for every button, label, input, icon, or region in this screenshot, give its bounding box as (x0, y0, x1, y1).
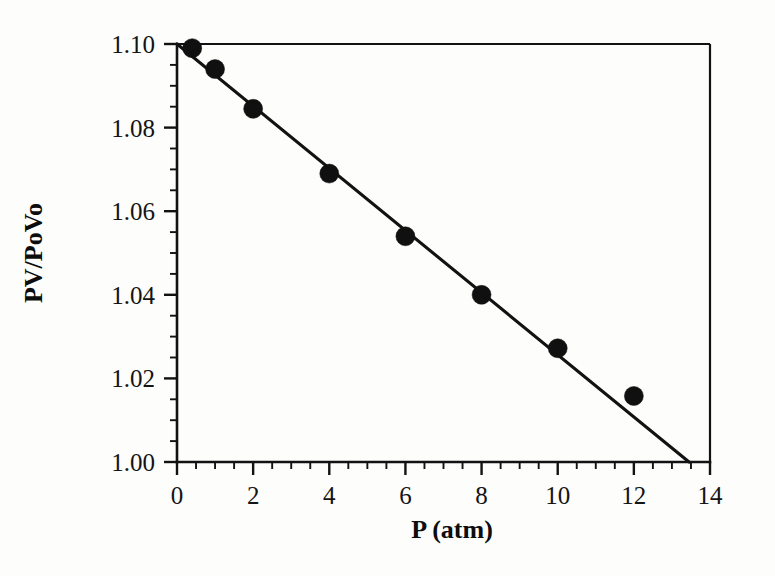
data-point-marker (183, 39, 202, 58)
x-axis-ticks (177, 462, 710, 475)
data-point-marker (396, 227, 415, 246)
x-tick-label: 12 (621, 482, 646, 509)
y-tick-label: 1.08 (111, 115, 155, 142)
y-axis-title: PV/PoVo (19, 203, 48, 303)
data-point-marker (320, 164, 339, 183)
x-axis-tick-labels: 02468101214 (171, 482, 723, 509)
y-tick-label: 1.04 (111, 282, 155, 309)
y-tick-label: 1.06 (111, 198, 155, 225)
data-points (183, 39, 644, 406)
scatter-plot: 02468101214 1.001.021.041.061.081.10 P (… (0, 0, 775, 576)
y-tick-label: 1.00 (111, 449, 155, 476)
x-tick-label: 8 (475, 482, 488, 509)
data-point-marker (472, 285, 491, 304)
x-tick-label: 0 (171, 482, 184, 509)
data-point-marker (548, 339, 567, 358)
data-point-marker (624, 386, 643, 405)
x-tick-label: 2 (247, 482, 260, 509)
data-point-marker (244, 99, 263, 118)
x-axis-title: P (atm) (411, 515, 493, 544)
chart-figure: 02468101214 1.001.021.041.061.081.10 P (… (0, 0, 775, 576)
x-tick-label: 4 (323, 482, 336, 509)
data-point-marker (206, 60, 225, 79)
x-tick-label: 6 (399, 482, 412, 509)
x-tick-label: 10 (545, 482, 570, 509)
y-axis-tick-labels: 1.001.021.041.061.081.10 (111, 31, 155, 476)
y-tick-label: 1.02 (111, 365, 155, 392)
x-tick-label: 14 (698, 482, 724, 509)
y-axis-ticks (164, 44, 177, 462)
y-tick-label: 1.10 (111, 31, 155, 58)
